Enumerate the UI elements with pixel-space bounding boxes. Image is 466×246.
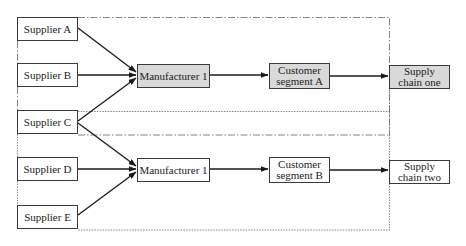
- supplier-d-node: Supplier D: [17, 157, 78, 181]
- edge-supplier-c-to-manufacturer-two: [78, 123, 136, 166]
- edge-supplier-a-to-manufacturer-one: [78, 28, 136, 72]
- supply-chain-one-node: Supply chain one: [389, 65, 450, 89]
- supplier-e-label: Supplier E: [24, 212, 71, 223]
- customer-segment-b-node: Customer segment B: [269, 157, 330, 183]
- supply-chain-one-label: Supply chain one: [398, 66, 440, 88]
- customer-segment-b-label: Customer segment B: [276, 159, 323, 181]
- manufacturer-two-label: Manufacturer 1: [139, 165, 207, 176]
- supply-chain-two-label: Supply chain two: [398, 161, 441, 183]
- supplier-c-label: Supplier C: [24, 117, 71, 128]
- customer-segment-a-node: Customer segment A: [269, 63, 330, 89]
- manufacturer-two-node: Manufacturer 1: [137, 158, 210, 182]
- edge-supplier-c-to-manufacturer-one: [78, 78, 136, 121]
- manufacturer-one-node: Manufacturer 1: [137, 64, 210, 88]
- supplier-a-node: Supplier A: [17, 17, 78, 41]
- supplier-a-label: Supplier A: [24, 24, 71, 35]
- supplier-d-label: Supplier D: [24, 164, 72, 175]
- customer-segment-a-label: Customer segment A: [276, 65, 323, 87]
- supply-chain-diagram: Supplier A Supplier B Supplier C Supplie…: [0, 0, 466, 246]
- manufacturer-one-label: Manufacturer 1: [139, 71, 207, 82]
- edge-supplier-e-to-manufacturer-two: [78, 172, 136, 215]
- supplier-b-label: Supplier B: [24, 70, 71, 81]
- supplier-b-node: Supplier B: [17, 63, 78, 87]
- supplier-e-node: Supplier E: [17, 205, 78, 229]
- supply-chain-two-node: Supply chain two: [389, 160, 450, 184]
- supplier-c-node: Supplier C: [17, 110, 78, 134]
